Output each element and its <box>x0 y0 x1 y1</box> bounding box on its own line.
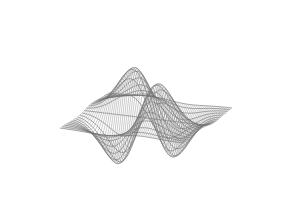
wireframe-surface <box>0 0 287 221</box>
surface-plot <box>0 0 287 221</box>
